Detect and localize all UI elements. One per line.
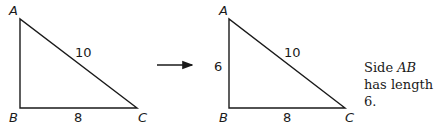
caption-suffix: has length 6.	[364, 77, 433, 109]
caption: Side AB has length 6.	[364, 59, 434, 110]
right-side-bc-label: 8	[283, 110, 291, 125]
left-triangle-shape	[20, 19, 137, 108]
right-side-ac-label: 10	[284, 45, 301, 60]
left-side-ac-label: 10	[75, 45, 92, 60]
right-triangle-shape	[229, 19, 345, 108]
caption-segment: AB	[397, 60, 416, 75]
left-side-bc-label: 8	[74, 110, 82, 125]
right-side-ab-label: 6	[214, 59, 222, 74]
left-vertex-c: C	[138, 110, 148, 125]
left-triangle: A B C 10 8	[8, 3, 148, 125]
caption-prefix: Side	[364, 60, 397, 75]
right-vertex-c: C	[345, 110, 355, 125]
left-vertex-a: A	[8, 3, 18, 18]
right-triangle: A B C 6 10 8	[214, 3, 355, 125]
right-vertex-a: A	[218, 3, 228, 18]
left-vertex-b: B	[9, 110, 18, 125]
right-vertex-b: B	[219, 110, 228, 125]
